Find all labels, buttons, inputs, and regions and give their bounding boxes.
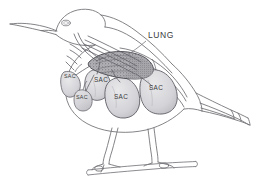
sac-label-posterior-thoracic: SAC [149, 84, 163, 91]
sac-label-cervical: SAC [64, 73, 76, 79]
bird-respiratory-diagram: LUNG SAC SAC SAC SAC SAC [0, 0, 253, 177]
sac-label-anterior-thoracic: SAC [76, 94, 88, 100]
sac-label-interclavicular: SAC [94, 76, 108, 83]
lung-label: LUNG [148, 30, 174, 40]
sac-label-abdominal: SAC [114, 93, 128, 100]
diagram-canvas: LUNG SAC SAC SAC SAC SAC [0, 0, 253, 177]
